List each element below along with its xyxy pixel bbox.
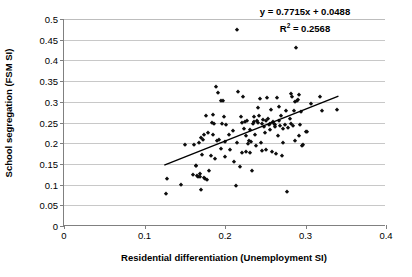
gridline — [64, 40, 385, 41]
y-tick-label: 0.2 — [45, 138, 58, 149]
x-tick-mark — [145, 225, 146, 229]
gridline — [64, 185, 385, 186]
gridline — [64, 60, 385, 61]
y-tick-label: 0.4 — [45, 55, 58, 66]
y-tick-label: 0.05 — [40, 200, 59, 211]
x-axis-title: Residential differentiation (Unemploymen… — [63, 252, 385, 263]
y-tick-label: 0.1 — [45, 179, 58, 190]
gridline — [64, 164, 385, 165]
y-tick-label: 0.35 — [40, 76, 59, 87]
gridlines — [64, 19, 385, 225]
y-tick-mark — [60, 81, 64, 82]
y-tick-mark — [60, 19, 64, 20]
x-tick-mark — [386, 225, 387, 229]
y-tick-mark — [60, 205, 64, 206]
x-tick-mark — [225, 225, 226, 229]
y-tick-mark — [60, 185, 64, 186]
y-tick-mark — [60, 102, 64, 103]
x-tick-label: 0.1 — [138, 230, 151, 241]
y-tick-mark — [60, 143, 64, 144]
x-tick-label: 0.2 — [218, 230, 231, 241]
y-tick-mark — [60, 40, 64, 41]
x-tick-mark — [306, 225, 307, 229]
scatter-chart: School segregation (FSM SI) 00.050.10.15… — [0, 0, 412, 277]
y-tick-label: 0.25 — [40, 117, 59, 128]
r-squared-label: R2 = 0.2568 — [210, 19, 400, 36]
y-tick-mark — [60, 123, 64, 124]
y-tick-label: 0 — [53, 221, 58, 232]
gridline — [64, 81, 385, 82]
gridline — [64, 102, 385, 103]
y-tick-label: 0.15 — [40, 158, 59, 169]
regression-equation-label: y = 0.7715x + 0.0488 — [210, 5, 400, 19]
y-tick-label: 0.5 — [45, 14, 58, 25]
x-tick-label: 0.4 — [379, 230, 392, 241]
r-squared-value: = 0.2568 — [290, 23, 330, 34]
y-tick-label: 0.45 — [40, 34, 59, 45]
gridline — [64, 205, 385, 206]
chart-annotations: y = 0.7715x + 0.0488 R2 = 0.2568 — [210, 5, 400, 36]
y-axis-title: School segregation (FSM SI) — [0, 0, 16, 226]
y-tick-label: 0.3 — [45, 96, 58, 107]
x-tick-mark — [64, 225, 65, 229]
r-squared-prefix: R — [280, 23, 287, 34]
y-tick-mark — [60, 164, 64, 165]
x-tick-label: 0.3 — [299, 230, 312, 241]
plot-area: 00.050.10.150.20.250.30.350.40.450.500.1… — [63, 19, 385, 226]
y-tick-mark — [60, 60, 64, 61]
x-tick-label: 0 — [61, 230, 66, 241]
